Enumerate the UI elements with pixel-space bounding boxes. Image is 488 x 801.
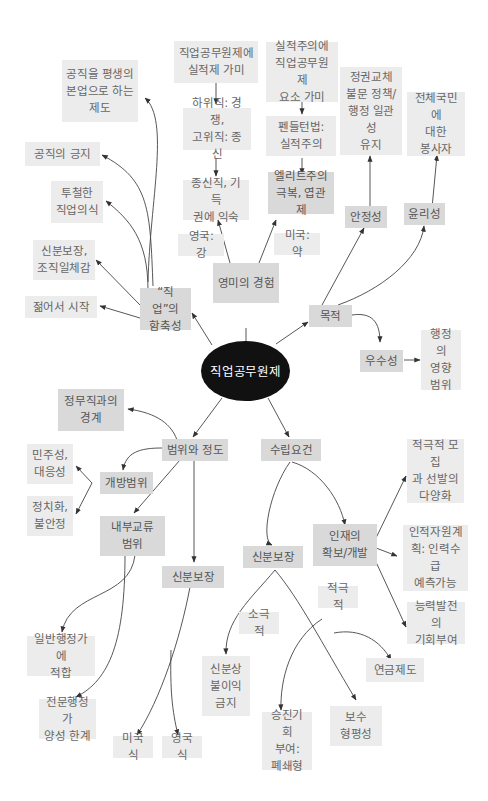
node-generalist: 일반행정가에 적합	[27, 636, 95, 676]
node-uk-style: 영국식	[162, 736, 202, 758]
node-open-scope: 개방범위	[100, 472, 153, 494]
node-pendleton: 펜들턴법: 실적주의	[266, 116, 336, 156]
node-merit-career: 실적주의에 직업공무원제 요소 가미	[266, 42, 338, 102]
node-purpose: 목적	[309, 305, 352, 327]
node-pay-equity: 보수 형평성	[330, 706, 382, 746]
node-hr-planning: 인적자원계 획: 인력수급 예측가능	[403, 525, 468, 591]
node-promotion: 승진기회 부여: 폐쇄형	[262, 712, 312, 770]
node-implication: “직업”의 함축성	[140, 288, 191, 330]
center-node: 직업공무원제	[201, 341, 290, 401]
node-anglo: 영미의 경험	[213, 263, 279, 303]
node-active: 적극적	[318, 586, 358, 608]
node-internal-scope: 내부교류 범위	[100, 516, 165, 556]
node-talent: 인재의 확보/개발	[313, 524, 377, 566]
node-career-merit: 직업공무원제에 실적제 가미	[174, 41, 258, 83]
node-political-boundary: 정무직과의 경계	[58, 389, 124, 431]
node-tenure: 종신직, 기득 권에 익숙	[183, 180, 249, 220]
node-development: 능력발전의 기회부여	[407, 602, 465, 644]
node-elitism: 엘리트주의 극복, 엽관제	[268, 172, 334, 214]
node-stability-desc: 정권교체 불문 정책/ 행정 일관성 유지	[340, 67, 402, 155]
node-democracy: 민주성, 대응성	[27, 444, 73, 484]
node-excellence: 우수성	[360, 350, 403, 372]
node-lower-upper: 하위직: 경쟁, 고위직: 종신	[183, 108, 251, 150]
node-pride: 공직의 긍지	[25, 142, 100, 166]
node-requirements: 수립요건	[261, 439, 321, 461]
node-ethics-desc: 전체국민에 대한 봉사자	[407, 92, 465, 156]
node-passive: 소극적	[239, 612, 279, 634]
node-uk-strong: 영국: 강	[178, 234, 224, 256]
node-vocation: 투철한 직업의식	[51, 181, 103, 223]
node-scope: 범위와 정도	[162, 439, 228, 461]
node-excellence-desc: 행정의 영향 범위	[421, 330, 461, 390]
node-req-security: 신분보장	[243, 546, 303, 568]
node-us-style: 미국식	[113, 736, 153, 758]
node-politicization: 정치화, 불안정	[27, 496, 73, 536]
node-recruitment: 적극적 모집 과 선발의 다양화	[407, 439, 464, 503]
node-stability: 안정성	[345, 206, 387, 228]
node-no-disadvantage: 신분상 불이익 금지	[202, 656, 250, 716]
node-young-start: 젊어서 시작	[25, 296, 97, 318]
node-scope-security: 신분보장	[162, 566, 224, 588]
node-security-unity: 신분보장, 조직일체감	[33, 240, 95, 280]
node-us-weak: 미국: 약	[274, 233, 320, 255]
node-lifelong: 공직을 평생의 본업으로 하는 제도	[62, 60, 138, 122]
node-ethics: 윤리성	[404, 203, 445, 225]
node-pension: 연금제도	[366, 658, 424, 682]
node-specialist: 전문행정가 양성 한계	[39, 699, 96, 739]
